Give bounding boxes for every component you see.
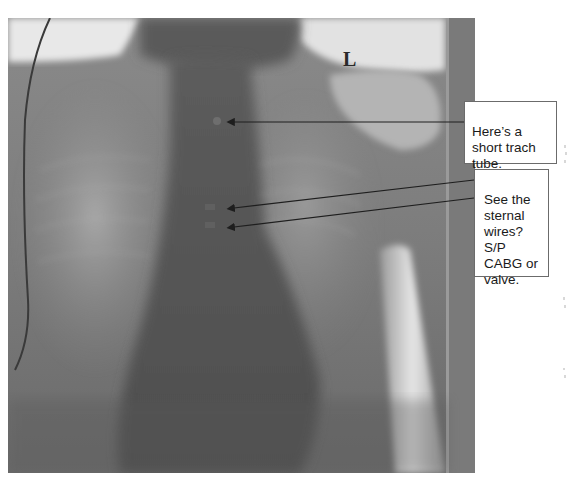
callout-sternal-wires: See the sternal wires? S/P CABG or valve…: [474, 169, 549, 277]
scan-artifact: [563, 145, 567, 378]
callout-trach-tube: Here’s a short trach tube.: [464, 101, 557, 164]
callout-sternal-wires-text: See the sternal wires? S/P CABG or valve…: [484, 192, 538, 287]
callout-trach-tube-text: Here’s a short trach tube.: [472, 124, 536, 171]
side-marker: L: [343, 48, 356, 70]
